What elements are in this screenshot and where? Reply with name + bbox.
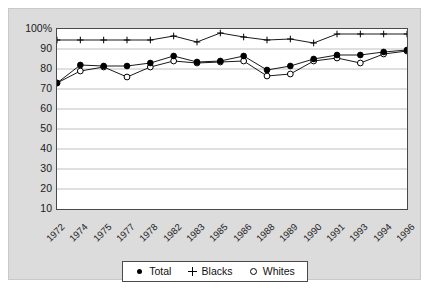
x-tick-label: 1988: [254, 221, 277, 244]
data-point: [101, 63, 107, 69]
plot-area: [56, 28, 408, 210]
data-point: [171, 53, 177, 59]
data-point: [124, 63, 130, 69]
chart-screenshot: 100%908070605040302010 19721974197519771…: [0, 0, 435, 296]
data-point: [264, 37, 271, 44]
x-tick-label: 1990: [301, 221, 324, 244]
x-tick-label: 1983: [184, 221, 207, 244]
data-point: [287, 71, 293, 77]
y-tick-label: 70: [40, 83, 52, 93]
series-svg: [57, 29, 407, 209]
data-point: [334, 31, 341, 38]
data-point: [194, 39, 201, 46]
legend-item-total: Total: [135, 266, 171, 277]
data-point: [124, 74, 130, 80]
gridlines: [57, 49, 407, 189]
series-total: [57, 47, 407, 86]
y-tick-label: 80: [40, 63, 52, 73]
data-point: [357, 52, 363, 58]
y-axis-tick-labels: 100%908070605040302010: [9, 9, 56, 210]
x-tick-label: 1991: [324, 221, 347, 244]
plus-marker-icon: [188, 267, 197, 276]
y-tick-label: 20: [40, 183, 52, 193]
open-circle-marker-icon: [249, 267, 258, 276]
series-blacks: [57, 30, 407, 47]
data-point: [77, 62, 83, 68]
data-point: [170, 33, 177, 40]
data-point: [77, 68, 83, 74]
series-whites: [57, 48, 407, 86]
data-point: [264, 73, 270, 79]
data-point: [147, 37, 154, 44]
x-tick-label: 1986: [231, 221, 254, 244]
series-line: [57, 50, 407, 83]
y-tick-label: 90: [40, 43, 52, 53]
x-tick-label: 1974: [67, 221, 90, 244]
data-point: [404, 31, 407, 38]
chart-legend: Total Blacks Whites: [122, 261, 308, 282]
data-point: [241, 53, 247, 59]
x-tick-label: 1985: [207, 221, 230, 244]
x-tick-label: 1977: [114, 221, 137, 244]
x-tick-label: 1996: [394, 221, 417, 244]
data-point: [57, 80, 60, 86]
data-point: [100, 37, 107, 44]
x-tick-label: 1975: [91, 221, 114, 244]
y-tick-label: 60: [40, 103, 52, 113]
x-tick-label: 1972: [44, 221, 67, 244]
legend-item-blacks: Blacks: [188, 266, 233, 277]
x-tick-label: 1994: [371, 221, 394, 244]
data-point: [381, 49, 387, 55]
y-tick-label: 30: [40, 163, 52, 173]
data-point: [404, 47, 407, 53]
y-tick-label: 10: [40, 203, 52, 213]
x-axis-tick-labels: 1972197419751977197819821983198519861988…: [56, 212, 408, 260]
data-point: [240, 34, 247, 41]
data-point: [264, 67, 270, 73]
legend-label-total: Total: [149, 266, 171, 277]
data-point: [357, 31, 364, 38]
y-tick-label: 100%: [25, 23, 52, 33]
data-point: [217, 58, 223, 64]
data-point: [380, 31, 387, 38]
chart-panel: 100%908070605040302010 19721974197519771…: [8, 8, 421, 280]
legend-label-whites: Whites: [263, 266, 295, 277]
data-point: [77, 37, 84, 44]
series-line: [57, 51, 407, 83]
data-point: [357, 60, 363, 66]
data-point: [334, 52, 340, 58]
data-point: [194, 59, 200, 65]
data-point: [287, 63, 293, 69]
data-point: [147, 60, 153, 66]
data-point: [310, 40, 317, 47]
data-point: [287, 36, 294, 43]
filled-circle-marker-icon: [135, 267, 144, 276]
data-point: [311, 56, 317, 62]
data-point: [57, 37, 60, 44]
legend-label-blacks: Blacks: [202, 266, 233, 277]
x-tick-label: 1993: [347, 221, 370, 244]
legend-item-whites: Whites: [249, 266, 295, 277]
x-tick-label: 1978: [137, 221, 160, 244]
x-tick-label: 1982: [161, 221, 184, 244]
series-line: [57, 33, 407, 43]
x-tick-label: 1989: [277, 221, 300, 244]
data-point: [217, 30, 224, 37]
y-tick-label: 50: [40, 123, 52, 133]
data-point: [124, 37, 131, 44]
y-tick-label: 40: [40, 143, 52, 153]
